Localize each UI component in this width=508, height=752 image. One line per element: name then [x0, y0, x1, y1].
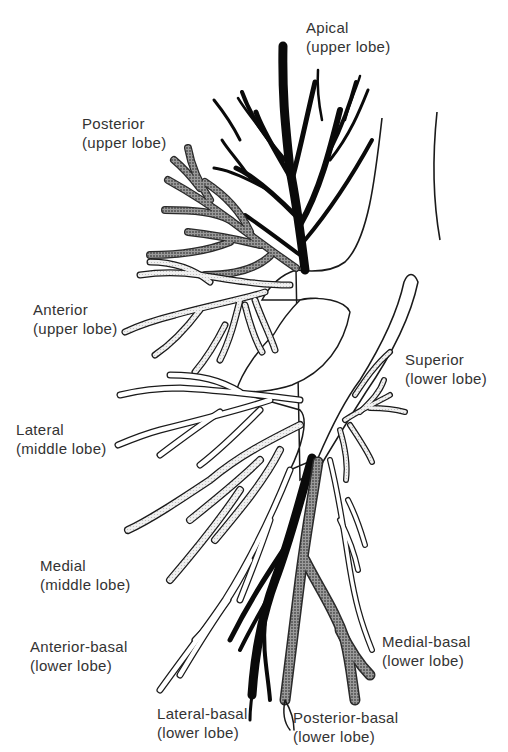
lobe-name: (upper lobe): [306, 37, 390, 56]
label-medial-middle-lobe: Medial (middle lobe): [40, 556, 131, 594]
label-apical-upper-lobe: Apical (upper lobe): [306, 18, 390, 56]
label-posterior-basal-lower-lobe: Posterior-basal (lower lobe): [293, 708, 398, 746]
lobe-name: (upper lobe): [82, 133, 166, 152]
label-lateral-basal-lower-lobe: Lateral-basal (lower lobe): [157, 704, 248, 742]
segment-name: Lateral-basal: [157, 704, 248, 723]
lobe-name: (lower lobe): [293, 727, 398, 746]
lobe-name: (upper lobe): [33, 319, 117, 338]
superior-lower-lobe-branches: [340, 352, 405, 480]
label-medial-basal-lower-lobe: Medial-basal (lower lobe): [382, 632, 471, 670]
label-anterior-basal-lower-lobe: Anterior-basal (lower lobe): [30, 637, 128, 675]
lobe-name: (lower lobe): [157, 723, 248, 742]
label-anterior-upper-lobe: Anterior (upper lobe): [33, 300, 117, 338]
segment-name: Posterior-basal: [293, 708, 398, 727]
label-superior-lower-lobe: Superior (lower lobe): [405, 350, 487, 388]
segment-name: Apical: [306, 18, 390, 37]
segment-name: Medial: [40, 556, 131, 575]
segment-name: Anterior: [33, 300, 117, 319]
segment-name: Superior: [405, 350, 487, 369]
label-lateral-middle-lobe: Lateral (middle lobe): [16, 420, 107, 458]
lobe-name: (middle lobe): [16, 439, 107, 458]
lobe-name: (lower lobe): [382, 651, 471, 670]
posterior-segment-branches: [150, 148, 296, 275]
segment-name: Anterior-basal: [30, 637, 128, 656]
segment-name: Posterior: [82, 114, 166, 133]
segment-name: Lateral: [16, 420, 107, 439]
segment-name: Medial-basal: [382, 632, 471, 651]
lobe-name: (middle lobe): [40, 575, 131, 594]
lobe-name: (lower lobe): [30, 656, 128, 675]
label-posterior-upper-lobe: Posterior (upper lobe): [82, 114, 166, 152]
lobe-name: (lower lobe): [405, 369, 487, 388]
